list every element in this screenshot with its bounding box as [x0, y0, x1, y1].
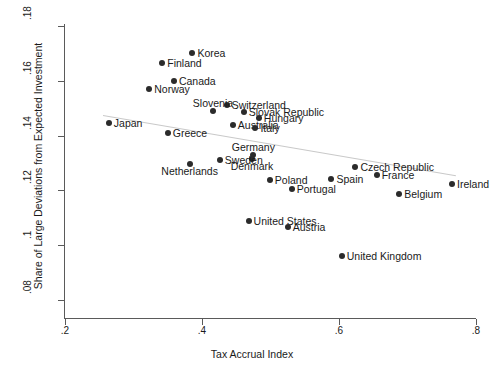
- y-axis-line: [64, 24, 65, 319]
- data-point-label: Canada: [179, 76, 216, 87]
- data-point: [267, 177, 273, 183]
- data-point-label: Japan: [114, 117, 143, 128]
- x-tick-label: .4: [198, 325, 206, 336]
- data-point-label: Spain: [336, 174, 363, 185]
- data-point-label: Portugal: [297, 184, 336, 195]
- y-axis-title: Share of Large Deviations from Expected …: [32, 36, 44, 296]
- data-point-label: Austria: [293, 222, 326, 233]
- y-tick-mark: [58, 190, 64, 191]
- x-tick-label: .8: [472, 325, 480, 336]
- data-point: [146, 86, 152, 92]
- y-tick-label: .12: [22, 170, 33, 184]
- data-point: [352, 164, 358, 170]
- data-point-label: Sweden: [225, 155, 263, 166]
- data-point-label: Belgium: [404, 189, 442, 200]
- y-tick-label: .16: [22, 61, 33, 75]
- data-point-label: Netherlands: [161, 166, 218, 177]
- data-point: [230, 122, 236, 128]
- x-tick-label: .6: [335, 325, 343, 336]
- data-point: [171, 78, 177, 84]
- data-point: [449, 181, 455, 187]
- x-axis-line: [64, 318, 476, 319]
- data-point: [339, 253, 345, 259]
- data-point: [217, 157, 223, 163]
- data-point-label: Germany: [232, 142, 275, 153]
- y-tick-mark: [58, 81, 64, 82]
- data-point-label: Italy: [260, 123, 279, 134]
- data-point: [396, 191, 402, 197]
- data-point: [241, 109, 247, 115]
- y-tick-label: .18: [22, 6, 33, 20]
- data-point-label: Finland: [167, 58, 201, 69]
- data-point-label: Korea: [197, 47, 225, 58]
- data-point-label: Greece: [173, 127, 207, 138]
- data-point: [285, 224, 291, 230]
- data-point: [106, 120, 112, 126]
- y-tick-label: .1: [22, 231, 33, 239]
- x-axis-title: Tax Accrual Index: [0, 348, 504, 360]
- scatter-plot-figure: Share of Large Deviations from Expected …: [0, 0, 504, 378]
- data-point: [289, 186, 295, 192]
- data-point: [252, 125, 258, 131]
- data-point-label: France: [382, 170, 415, 181]
- data-point: [165, 130, 171, 136]
- y-tick-mark: [58, 26, 64, 27]
- data-point-label: Ireland: [457, 179, 489, 190]
- y-tick-mark: [58, 245, 64, 246]
- data-point: [328, 176, 334, 182]
- y-tick-mark: [58, 300, 64, 301]
- data-point: [159, 60, 165, 66]
- x-tick-label: .2: [61, 325, 69, 336]
- data-point-label: Slovenia: [193, 98, 233, 109]
- data-point: [189, 50, 195, 56]
- data-point: [246, 218, 252, 224]
- y-tick-label: .14: [22, 116, 33, 130]
- y-tick-mark: [58, 136, 64, 137]
- y-tick-label: .08: [22, 280, 33, 294]
- data-point: [374, 172, 380, 178]
- data-point-label: United Kingdom: [347, 251, 422, 262]
